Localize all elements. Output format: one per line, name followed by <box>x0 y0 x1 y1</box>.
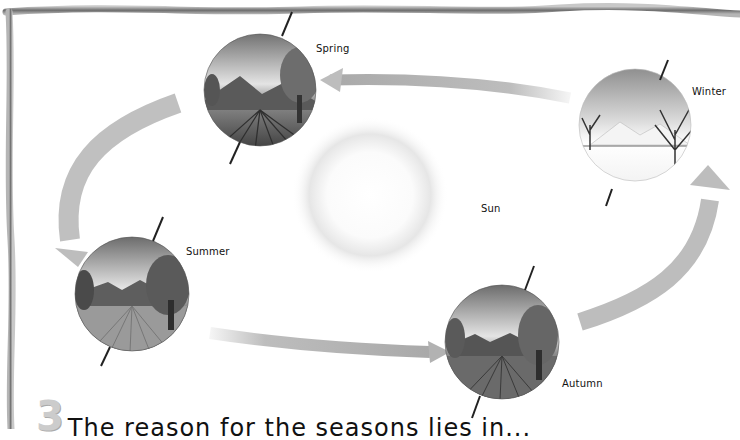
step-number: 3 <box>36 393 64 439</box>
axis-line <box>153 217 163 241</box>
winter-globe <box>575 65 695 185</box>
frame-left-border <box>9 12 12 429</box>
axis-line <box>282 12 292 36</box>
season-label-summer: Summer <box>186 246 230 257</box>
season-label-spring: Spring <box>316 43 349 54</box>
season-label-winter: Winter <box>692 86 726 97</box>
axis-line <box>230 142 240 164</box>
arrow-head-to-summer <box>55 248 88 267</box>
axis-line <box>525 266 534 290</box>
arrow-head-to-spring <box>320 68 343 92</box>
summer-globe <box>74 236 190 352</box>
spring-globe <box>200 30 320 150</box>
autumn-globe <box>444 284 560 400</box>
sun-icon <box>292 117 448 273</box>
axis-line <box>101 347 110 366</box>
step-text: The reason for the seasons lies in... <box>68 414 531 440</box>
axis-line <box>606 189 612 206</box>
frame-top-border <box>6 7 740 14</box>
arrow-head-to-winter <box>690 165 730 190</box>
sun-label: Sun <box>481 203 501 214</box>
step-heading: 3The reason for the seasons lies in... <box>36 396 531 436</box>
season-label-autumn: Autumn <box>562 378 603 389</box>
